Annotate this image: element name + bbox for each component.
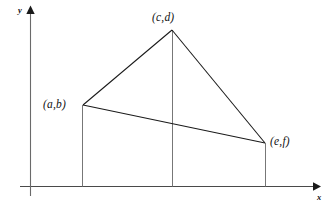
x-axis-arrowhead bbox=[313, 182, 321, 191]
vertex-label-cd: (c,d) bbox=[152, 12, 174, 24]
triangle-group bbox=[83, 30, 265, 143]
vertex-label-ef: (e,f) bbox=[270, 136, 290, 148]
y-axis-label: y bbox=[18, 6, 22, 15]
drop-lines-group bbox=[83, 30, 266, 187]
vertex-label-ab: (a,b) bbox=[43, 99, 66, 111]
coordinate-triangle-diagram: (a,b) (c,d) (e,f) y x bbox=[0, 0, 330, 206]
x-axis-label: x bbox=[317, 193, 321, 202]
triangle-edge-ab-cd bbox=[83, 30, 172, 105]
triangle-edge-ab-ef bbox=[83, 105, 265, 143]
y-axis-arrowhead bbox=[26, 6, 34, 15]
